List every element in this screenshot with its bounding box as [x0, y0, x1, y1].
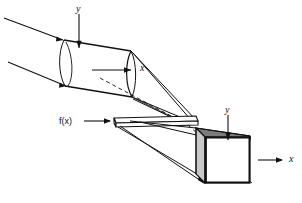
- input-y-axis-label: y: [75, 3, 81, 14]
- diverging-ray-to-box-bottom-front: [120, 126, 204, 183]
- incoming-ray-lower: [8, 62, 66, 86]
- output-box-front-face: [205, 137, 250, 183]
- cylinder-back-rim: [60, 40, 65, 86]
- cylinder-inner-curve: [66, 42, 72, 86]
- incoming-rays-group: [4, 18, 66, 88]
- transparency-label: f(x): [59, 116, 72, 126]
- transparency-pointer-group: [84, 118, 111, 123]
- incoming-ray-upper: [4, 18, 63, 40]
- output-y-axis-label: y: [224, 104, 230, 115]
- output-box: [196, 128, 250, 183]
- transparency-pointer-arrowhead: [104, 118, 111, 123]
- figure-root: y x f(x): [0, 0, 302, 203]
- input-x-axis-arrowhead: [124, 67, 131, 72]
- cylinder-front-rim: [127, 51, 132, 97]
- cylinder-bottom-edge: [65, 86, 132, 97]
- input-y-axis-arrowhead: [76, 41, 81, 48]
- cylinder-front-rim-back-half: [131, 51, 136, 97]
- output-x-axis-label: x: [288, 153, 294, 164]
- diverging-rays-group: [118, 121, 206, 184]
- converging-ray-mid: [130, 96, 176, 119]
- cylinder-top-edge: [64, 40, 131, 51]
- output-x-axis-arrowhead: [276, 157, 283, 162]
- ray-diagram-svg: y x f(x): [0, 0, 302, 203]
- diverging-ray-to-box-bottom-back: [118, 127, 197, 174]
